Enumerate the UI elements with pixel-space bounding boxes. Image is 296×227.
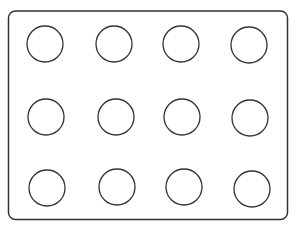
- circle-r3-c4: [234, 171, 270, 207]
- circle-r2-c4: [232, 100, 268, 136]
- circle-r1-c4: [231, 27, 267, 63]
- circle-r1-c2: [96, 26, 132, 62]
- circle-r2-c1: [28, 99, 64, 135]
- circle-r3-c3: [166, 169, 202, 205]
- circle-r1-c3: [163, 26, 199, 62]
- circle-r2-c2: [98, 99, 134, 135]
- circle-r2-c3: [164, 99, 200, 135]
- circle-r3-c1: [29, 170, 65, 206]
- diagram-canvas: [0, 0, 296, 227]
- circle-r1-c1: [27, 26, 63, 62]
- circle-r3-c2: [99, 169, 135, 205]
- circle-grid: [27, 26, 270, 207]
